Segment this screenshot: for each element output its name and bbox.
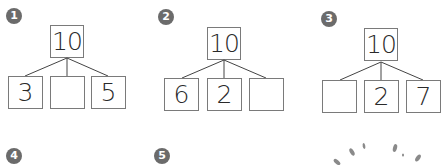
sparkle-decoration-icon bbox=[0, 0, 445, 165]
